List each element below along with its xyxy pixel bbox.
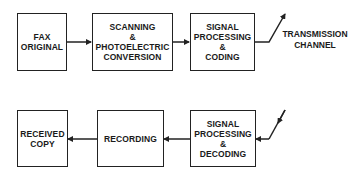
transmission-channel-label: TRANSMISSION CHANNEL <box>281 29 349 51</box>
box-label-line: & <box>220 139 226 149</box>
box-label-line: & <box>129 32 135 42</box>
box-label-line: & <box>219 42 225 52</box>
received-copy-box: RECEIVED COPY <box>17 110 68 167</box>
box-label-line: SCANNING <box>109 22 155 32</box>
signal-processing-coding-box: SIGNAL PROCESSING & CODING <box>190 13 255 71</box>
box-label-line: SIGNAL <box>207 119 240 129</box>
box-label-line: SIGNAL <box>206 22 239 32</box>
signal-processing-decoding-box: SIGNAL PROCESSING & DECODING <box>190 110 256 167</box>
fax-original-box: FAX ORIGINAL <box>17 13 67 71</box>
box-label-line: PROCESSING <box>194 129 252 139</box>
box-label-line: FAX <box>34 32 51 42</box>
recording-box: RECORDING <box>97 110 164 167</box>
box-label-line: PHOTOELECTRIC <box>96 42 170 52</box>
box-label-line: DECODING <box>200 149 247 159</box>
box-label-line: CODING <box>205 52 240 62</box>
box-label-line: COPY <box>30 139 55 149</box>
label-line: TRANSMISSION <box>281 29 349 40</box>
scanning-conversion-box: SCANNING & PHOTOELECTRIC CONVERSION <box>92 13 173 71</box>
label-line: CHANNEL <box>281 40 349 51</box>
channel-input-arrowhead-guide <box>278 110 285 123</box>
box-label-line: PROCESSING <box>194 32 252 42</box>
box-label-line: RECORDING <box>104 134 157 144</box>
box-label-line: ORIGINAL <box>21 42 63 52</box>
box-label-line: CONVERSION <box>103 52 161 62</box>
box-label-line: RECEIVED <box>20 129 64 139</box>
